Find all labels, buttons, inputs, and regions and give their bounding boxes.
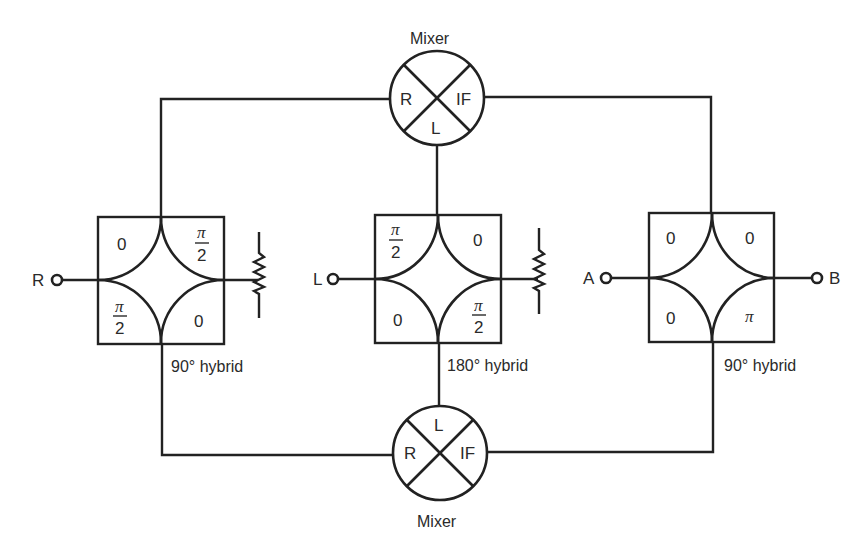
phase-top-right: 0: [473, 231, 482, 250]
mixer-bottom-port-r: R: [404, 444, 416, 463]
terminal-r: R: [32, 271, 62, 290]
terminal-l-label: L: [313, 270, 322, 289]
svg-text:π: π: [115, 297, 124, 316]
image-reject-mixer-diagram: R L A B 0 π 2 π 2: [0, 0, 862, 551]
terminal-b-label: B: [829, 269, 840, 288]
svg-text:π: π: [391, 220, 400, 239]
mixer-top-port-if: IF: [456, 90, 471, 109]
mixer-top-port-r: R: [400, 90, 412, 109]
wire-left-hybrid-to-top-mixer: [161, 99, 390, 217]
hybrid-right-90: 0 0 0 π 90° hybrid: [649, 213, 796, 374]
wire-top-mixer-if-to-right-hybrid: [484, 97, 711, 213]
phase-top-right: π 2: [195, 223, 209, 265]
svg-text:2: 2: [115, 319, 124, 338]
hybrid-center-180: π 2 0 0 π 2 180° hybrid: [375, 215, 528, 374]
phase-bottom-left: π 2: [113, 297, 127, 338]
svg-text:2: 2: [391, 243, 400, 262]
diagram-svg: R L A B 0 π 2 π 2: [0, 0, 862, 551]
terminal-icon: [601, 273, 611, 283]
resistor-icon: [254, 232, 264, 318]
terminal-icon: [52, 275, 62, 285]
svg-text:π: π: [197, 223, 206, 242]
hybrid-center-caption: 180° hybrid: [447, 357, 528, 374]
mixer-top-caption: Mixer: [410, 30, 450, 47]
resistor-icon: [534, 228, 544, 314]
terminal-icon: [812, 273, 822, 283]
phase-top-right: 0: [745, 229, 754, 248]
svg-text:2: 2: [474, 318, 483, 337]
phase-bottom-right: 0: [194, 312, 203, 331]
phase-bottom-left: 0: [393, 311, 402, 330]
terminal-b: B: [812, 269, 840, 288]
terminal-l: L: [313, 270, 338, 289]
wires: [62, 97, 811, 455]
terminal-icon: [328, 274, 338, 284]
hybrid-right-caption: 90° hybrid: [724, 357, 796, 374]
mixer-bottom-caption: Mixer: [417, 513, 457, 530]
mixer-bottom-port-l: L: [434, 416, 443, 435]
mixer-top-port-l: L: [431, 119, 440, 138]
terminal-a-label: A: [583, 269, 595, 288]
terminal-r-label: R: [32, 271, 44, 290]
phase-bottom-right: π: [745, 307, 754, 326]
phase-top-left: 0: [117, 235, 126, 254]
mixer-bottom-port-if: IF: [460, 444, 475, 463]
phase-top-left: 0: [666, 229, 675, 248]
hybrid-left-caption: 90° hybrid: [171, 358, 243, 375]
mixer-top: Mixer R IF L: [390, 30, 484, 145]
phase-top-left: π 2: [389, 220, 403, 262]
phase-bottom-left: 0: [666, 309, 675, 328]
mixer-bottom: L R IF Mixer: [393, 406, 487, 530]
svg-text:π: π: [474, 296, 483, 315]
hybrid-left-90: 0 π 2 π 2 0 90° hybrid: [98, 217, 243, 375]
terminal-a: A: [583, 269, 611, 288]
svg-text:2: 2: [197, 246, 206, 265]
phase-bottom-right: π 2: [472, 296, 486, 337]
